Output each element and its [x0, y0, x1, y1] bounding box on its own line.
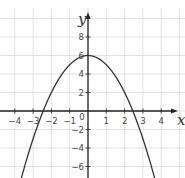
- y-tick-label: 4: [79, 69, 84, 79]
- parabola-graph: −4−3−2−101234−6−4−22468 x y: [0, 0, 185, 178]
- y-tick-label: −2: [71, 125, 84, 135]
- y-axis-label: y: [77, 10, 87, 28]
- x-tick-label: 3: [140, 116, 145, 126]
- y-tick-label: −6: [71, 162, 84, 172]
- x-tick-label: −4: [9, 116, 22, 126]
- y-tick-label: −4: [71, 143, 84, 153]
- x-tick-label: 2: [122, 116, 127, 126]
- y-tick-label: 2: [79, 88, 84, 98]
- y-tick-label: 8: [79, 32, 84, 42]
- x-axis-label: x: [177, 111, 185, 129]
- tick-labels: −4−3−2−101234−6−4−22468: [9, 32, 164, 172]
- x-tick-label: 4: [158, 116, 163, 126]
- grid-lines: [0, 8, 185, 178]
- x-tick-label: −2: [45, 116, 58, 126]
- x-tick-label: 1: [104, 116, 109, 126]
- x-tick-label: 0: [79, 112, 84, 122]
